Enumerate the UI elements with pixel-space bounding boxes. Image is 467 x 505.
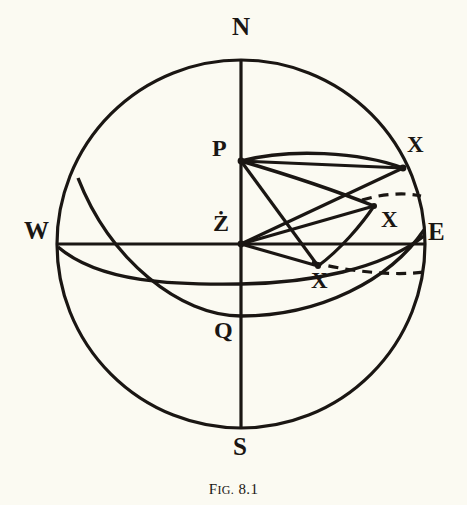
figure-page: N S W E P Ż Q X X X FIG. 8.1 (0, 0, 467, 505)
figure-caption: FIG. 8.1 (0, 481, 467, 498)
node-star-middle (371, 203, 377, 209)
label-east: E (428, 219, 445, 244)
label-pole: P (212, 136, 227, 160)
caption-number: 8.1 (238, 481, 258, 497)
label-north: N (232, 14, 250, 39)
node-pole (238, 158, 245, 165)
node-star-upper (400, 165, 407, 172)
ray-zenith-to-star-lower (241, 244, 318, 266)
label-zenith: Ż (213, 211, 229, 235)
label-west: W (24, 218, 49, 243)
celestial-sphere-diagram (0, 0, 467, 505)
hour-circle-lower-arc (241, 161, 374, 206)
label-star-middle: X (381, 208, 398, 231)
caption-smallcaps: IG. (217, 483, 234, 497)
label-equator-point: Q (214, 318, 233, 342)
label-star-upper: X (407, 133, 424, 156)
label-star-lower: X (311, 269, 328, 292)
node-zenith (238, 241, 245, 248)
ray-zenith-to-star-upper (241, 168, 403, 244)
label-south: S (233, 434, 247, 459)
dashed-continuation-upper (362, 194, 421, 200)
